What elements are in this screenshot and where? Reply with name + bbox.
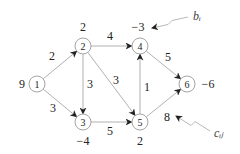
node-label: 2 (81, 41, 86, 52)
edge-2-5: 3 (88, 52, 135, 115)
node-supply-label: 2 (80, 20, 86, 34)
node-label: 6 (185, 79, 190, 90)
node-supply-label: −4 (77, 134, 90, 148)
node-supply-label: −3 (132, 20, 145, 34)
edge-cost-label: 5 (165, 50, 171, 64)
edge-cost-label: 8 (164, 110, 170, 124)
annotations-layer: bᵢcᵢⱼ (152, 9, 224, 140)
node-label: 4 (138, 41, 143, 52)
node-3: 3−4 (75, 114, 91, 148)
node-2: 22 (75, 20, 91, 54)
edge-2-3: 3 (83, 54, 93, 114)
node-5: 52 (132, 114, 148, 148)
node-supply-label: 2 (137, 134, 143, 148)
annotation-c_ij: cᵢⱼ (176, 116, 224, 140)
node-supply-label: 9 (19, 77, 25, 91)
edge-cost-label: 1 (144, 80, 150, 94)
edge-arrow (43, 89, 76, 116)
edge-4-6: 5 (146, 50, 180, 79)
node-label: 3 (81, 117, 86, 128)
node-6: 6−6 (179, 76, 214, 92)
edge-arrow (88, 52, 135, 115)
node-supply-label: −6 (202, 77, 215, 91)
edge-2-4: 4 (91, 29, 132, 46)
edge-arrow (146, 51, 180, 79)
annotation-label: cᵢⱼ (214, 126, 224, 140)
edge-cost-label: 3 (87, 77, 93, 91)
edge-3-5: 5 (91, 122, 132, 138)
node-1: 19 (19, 76, 45, 92)
edge-5-6: 8 (146, 89, 180, 124)
annotation-label: bᵢ (193, 9, 201, 23)
edge-1-3: 3 (43, 89, 76, 116)
edge-cost-label: 5 (107, 124, 113, 138)
node-4: 4−3 (132, 20, 148, 54)
pointer-arrow-icon (176, 116, 210, 131)
pointer-arrow-icon (152, 17, 188, 28)
edge-cost-label: 3 (50, 101, 56, 115)
node-label: 5 (138, 117, 143, 128)
edge-1-2: 2 (43, 49, 76, 79)
edge-5-4: 1 (140, 55, 150, 115)
edge-cost-label: 3 (113, 73, 119, 87)
annotation-b_i: bᵢ (152, 9, 201, 28)
edge-cost-label: 4 (107, 29, 113, 43)
edges-layer: 234335158 (43, 29, 180, 138)
edge-cost-label: 2 (49, 49, 55, 63)
flow-network-diagram: 234335158 19223−44−3526−6 bᵢcᵢⱼ (0, 0, 240, 154)
node-label: 1 (35, 79, 40, 90)
